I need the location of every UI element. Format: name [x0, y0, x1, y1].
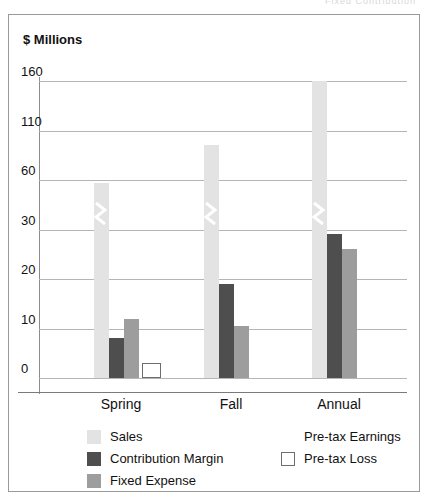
legend-label: Fixed Expense [110, 473, 196, 488]
legend-item[interactable]: Sales [87, 429, 143, 444]
y-axis-tick-label: 20 [21, 262, 35, 278]
bar-cm-annual [327, 234, 342, 378]
clipped-header-label: Fixed Contribution [325, 0, 416, 6]
bar-cm-fall [219, 284, 234, 378]
legend-swatch-loss [281, 452, 295, 466]
bar-sales-fall [204, 145, 219, 378]
y-axis-tick-label: 60 [21, 163, 35, 179]
x-axis-label-annual: Annual [294, 396, 384, 412]
bar-fe-spring [124, 319, 139, 378]
y-axis-title: $ Millions [23, 32, 82, 47]
y-axis-tick-label: 10 [21, 312, 35, 328]
legend-label: Sales [110, 429, 143, 444]
gridline [39, 378, 407, 379]
legend-item[interactable]: Pre-tax Earnings [281, 429, 401, 444]
legend-swatch-sales [87, 430, 101, 444]
chart-legend: SalesContribution MarginFixed ExpensePre… [9, 429, 421, 491]
y-axis-tick-label: 0 [21, 361, 28, 377]
bar-cm-spring [109, 338, 124, 378]
legend-label: Pre-tax Loss [304, 451, 377, 466]
legend-swatch-cm [87, 452, 101, 466]
chart-figure-frame: $ Millions 010203060110160 SpringFallAnn… [8, 14, 420, 492]
bar-loss-spring [142, 363, 161, 378]
legend-item[interactable]: Fixed Expense [87, 473, 196, 488]
legend-swatch-earn [281, 430, 295, 444]
legend-item[interactable]: Pre-tax Loss [281, 451, 377, 466]
x-axis-line [18, 392, 407, 393]
legend-label: Contribution Margin [110, 451, 223, 466]
legend-swatch-fe [87, 474, 101, 488]
x-axis-label-fall: Fall [186, 396, 276, 412]
clipped-header-text: Fixed Contribution [0, 0, 432, 12]
legend-label: Pre-tax Earnings [304, 429, 401, 444]
y-axis-tick-label: 160 [21, 64, 43, 80]
x-axis-label-spring: Spring [76, 396, 166, 412]
bar-fe-annual [342, 249, 357, 378]
bar-sales-spring [94, 183, 109, 378]
bar-fe-fall [234, 326, 249, 378]
y-axis-tick-label: 30 [21, 213, 35, 229]
bar-sales-annual [312, 81, 327, 378]
plot-area [39, 81, 407, 378]
legend-item[interactable]: Contribution Margin [87, 451, 223, 466]
